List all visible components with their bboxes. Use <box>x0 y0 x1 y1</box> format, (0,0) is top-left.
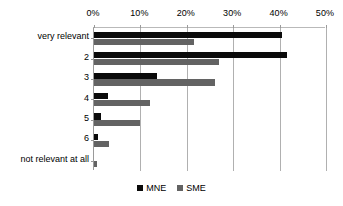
x-tick-label-4: 40% <box>269 8 287 19</box>
bar-sme-0 <box>94 39 194 45</box>
legend-entry-sme[interactable]: SME <box>177 183 206 193</box>
chart-legend: MNESME <box>0 183 343 193</box>
bar-sme-4 <box>94 120 140 126</box>
bar-group <box>94 151 326 171</box>
x-tick-label-2: 20% <box>177 8 195 19</box>
bar-mne-0 <box>94 32 282 38</box>
bar-group <box>94 48 326 68</box>
legend-label-mne: MNE <box>146 183 166 193</box>
gridline-5 <box>326 28 327 171</box>
y-category-label-6: not relevant at all <box>20 154 89 165</box>
bar-mne-3 <box>94 93 108 99</box>
bar-sme-1 <box>94 59 219 65</box>
y-axis-category-labels: very relevant23456not relevant at all <box>0 27 89 170</box>
bar-mne-4 <box>94 113 101 119</box>
y-category-label-2: 3 <box>84 72 89 83</box>
bar-sme-6 <box>94 161 97 167</box>
x-tick-label-3: 30% <box>223 8 241 19</box>
y-category-label-1: 2 <box>84 52 89 63</box>
bar-sme-3 <box>94 100 150 106</box>
y-category-label-5: 6 <box>84 133 89 144</box>
x-tick-label-5: 50% <box>316 8 334 19</box>
bar-sme-2 <box>94 79 215 85</box>
legend-entry-mne[interactable]: MNE <box>137 183 166 193</box>
x-tickmark-5 <box>326 25 327 28</box>
bar-sme-5 <box>94 141 109 147</box>
bar-group <box>94 110 326 130</box>
bar-mne-5 <box>94 134 98 140</box>
bar-group <box>94 89 326 109</box>
plot-area <box>93 27 325 170</box>
y-category-label-3: 4 <box>84 93 89 104</box>
bar-mne-1 <box>94 52 287 58</box>
x-axis-tick-labels: 0%10%20%30%40%50% <box>0 8 343 22</box>
bar-group <box>94 69 326 89</box>
y-category-label-0: very relevant <box>37 31 89 42</box>
legend-swatch-icon-mne <box>137 185 143 191</box>
x-tick-label-0: 0% <box>86 8 99 19</box>
y-category-label-4: 5 <box>84 113 89 124</box>
bar-chart: 0%10%20%30%40%50% very relevant23456not … <box>0 0 343 206</box>
legend-swatch-icon-sme <box>177 185 183 191</box>
bar-group <box>94 130 326 150</box>
bar-mne-2 <box>94 73 157 79</box>
x-tick-label-1: 10% <box>130 8 148 19</box>
bar-group <box>94 28 326 48</box>
legend-label-sme: SME <box>186 183 206 193</box>
